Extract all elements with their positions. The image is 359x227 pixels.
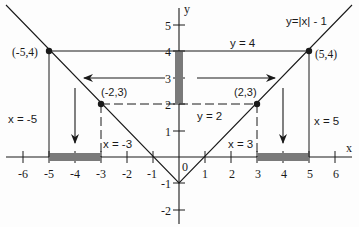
point-label: (2,3) <box>234 86 257 98</box>
x-tick-label: 3 <box>255 167 261 181</box>
x-tick-label: -5 <box>44 167 54 181</box>
point-2-3 <box>254 101 260 107</box>
x-tick-label: 1 <box>202 167 208 181</box>
shaded-y-interval <box>175 51 183 104</box>
y-tick-label: 2 <box>165 98 171 112</box>
y-tick-label: 5 <box>165 19 171 33</box>
label-x-5: x = 5 <box>314 115 339 127</box>
function-label: y=|x| - 1 <box>286 15 327 27</box>
graph-svg: -6 -5 -4 -3 -2 -1 1 2 3 4 5 6 5 4 3 2 1 … <box>0 0 359 227</box>
y-tick-label: 3 <box>165 72 171 86</box>
x-axis-label: x <box>346 141 352 155</box>
point-minus5-4 <box>46 48 52 54</box>
y-tick-label: -1 <box>161 177 171 191</box>
x-tick-label: 4 <box>281 167 287 181</box>
x-tick-label: 2 <box>229 167 235 181</box>
origin-label: 0 <box>182 160 188 174</box>
point-minus2-3 <box>98 101 104 107</box>
label-x-minus-3: x = -3 <box>103 138 132 150</box>
label-x-3: x = 3 <box>228 138 253 150</box>
point-label: (-5,4) <box>12 46 38 59</box>
point-5-4 <box>306 48 312 54</box>
x-tick-label: 6 <box>333 167 339 181</box>
point-label: (-2,3) <box>101 86 127 98</box>
y-tick-label: -2 <box>161 204 171 218</box>
label-y-4: y = 4 <box>230 37 256 49</box>
x-tick-label: -6 <box>18 167 28 181</box>
x-tick-label: 5 <box>307 167 313 181</box>
point-label: (5,4) <box>315 48 337 61</box>
y-axis-label: y <box>184 2 190 16</box>
x-tick-label: -3 <box>96 167 106 181</box>
x-tick-label: -1 <box>147 167 157 181</box>
y-tick-label: 1 <box>165 125 171 139</box>
x-tick-label: -4 <box>70 167 80 181</box>
label-x-minus-5: x = -5 <box>8 113 37 125</box>
y-tick-label: 4 <box>165 45 171 59</box>
label-y-2: y = 2 <box>197 110 222 122</box>
shaded-x-interval-right <box>257 153 309 161</box>
x-tick-label: -2 <box>122 167 132 181</box>
diagram-canvas: -6 -5 -4 -3 -2 -1 1 2 3 4 5 6 5 4 3 2 1 … <box>0 0 359 227</box>
shaded-x-interval-left <box>49 153 101 161</box>
